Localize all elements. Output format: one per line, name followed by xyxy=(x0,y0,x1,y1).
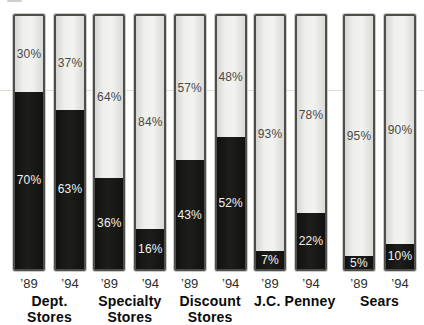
pct-label-bottom: 36% xyxy=(97,216,122,230)
segment-black-sears-89: 5% xyxy=(345,256,373,269)
year-label-specialty-stores-94: ’94 xyxy=(134,276,166,291)
segment-black-dept-stores-89: 70% xyxy=(15,92,43,269)
pct-label-top: 37% xyxy=(58,56,83,70)
group-label-line: Stores xyxy=(93,310,166,325)
pct-label-bottom: 52% xyxy=(218,196,243,210)
bar-group-discount-stores: 57%43%48%52%’89’94DiscountStores xyxy=(174,14,247,325)
segment-black-dept-stores-94: 63% xyxy=(56,110,84,269)
segment-light-discount-stores-94: 48% xyxy=(217,16,245,137)
pct-label-top: 48% xyxy=(218,70,243,84)
bars-row-j-c-penney: 93%7%78%22% xyxy=(254,14,336,271)
bars-row-dept-stores: 30%70%37%63% xyxy=(13,14,86,271)
years-row-discount-stores: ’89’94 xyxy=(174,276,247,291)
group-label-line: Dept. xyxy=(13,294,86,310)
bar-discount-stores-94: 48%52% xyxy=(215,14,247,271)
pct-label-bottom: 22% xyxy=(299,234,324,248)
years-row-sears: ’89’94 xyxy=(343,276,416,291)
pct-label-bottom: 5% xyxy=(350,256,368,270)
segment-light-dept-stores-94: 37% xyxy=(56,16,84,110)
stacked-bar-chart: 30%70%37%63%’89’94Dept.Stores64%36%84%16… xyxy=(0,14,424,325)
bar-group-dept-stores: 30%70%37%63%’89’94Dept.Stores xyxy=(13,14,86,325)
segment-light-j-c-penney-94: 78% xyxy=(297,16,325,213)
bar-dept-stores-89: 30%70% xyxy=(13,14,45,271)
segment-light-sears-94: 90% xyxy=(386,16,414,244)
segment-black-specialty-stores-94: 16% xyxy=(136,229,164,269)
group-label-sears: Sears xyxy=(343,294,416,310)
group-label-line: Specialty xyxy=(93,294,166,310)
pct-label-bottom: 7% xyxy=(261,253,279,267)
segment-light-discount-stores-89: 57% xyxy=(176,16,204,160)
segment-light-dept-stores-89: 30% xyxy=(15,16,43,92)
pct-label-top: 90% xyxy=(388,123,413,137)
year-label-specialty-stores-89: ’89 xyxy=(93,276,125,291)
years-row-dept-stores: ’89’94 xyxy=(13,276,86,291)
scan-smudge-artifact xyxy=(7,0,22,2)
segment-black-j-c-penney-89: 7% xyxy=(256,251,284,269)
group-label-line: J.C. Penney xyxy=(254,294,336,310)
group-label-j-c-penney: J.C. Penney xyxy=(254,294,336,310)
pct-label-top: 64% xyxy=(97,90,122,104)
year-label-sears-89: ’89 xyxy=(343,276,375,291)
pct-label-bottom: 16% xyxy=(138,242,163,256)
segment-black-sears-94: 10% xyxy=(386,244,414,269)
bars-row-sears: 95%5%90%10% xyxy=(343,14,416,271)
bar-sears-89: 95%5% xyxy=(343,14,375,271)
year-label-j-c-penney-94: ’94 xyxy=(295,276,327,291)
pct-label-bottom: 43% xyxy=(177,208,202,222)
pct-label-top: 57% xyxy=(177,81,202,95)
bars-row-discount-stores: 57%43%48%52% xyxy=(174,14,247,271)
group-label-specialty-stores: SpecialtyStores xyxy=(93,294,166,325)
bar-j-c-penney-94: 78%22% xyxy=(295,14,327,271)
segment-black-j-c-penney-94: 22% xyxy=(297,213,325,269)
year-label-dept-stores-89: ’89 xyxy=(13,276,45,291)
group-label-line: Stores xyxy=(13,310,86,325)
year-label-discount-stores-89: ’89 xyxy=(174,276,206,291)
year-label-j-c-penney-89: ’89 xyxy=(254,276,286,291)
bar-specialty-stores-89: 64%36% xyxy=(93,14,125,271)
pct-label-top: 30% xyxy=(17,47,42,61)
group-label-dept-stores: Dept.Stores xyxy=(13,294,86,325)
segment-black-discount-stores-94: 52% xyxy=(217,137,245,269)
bar-j-c-penney-89: 93%7% xyxy=(254,14,286,271)
pct-label-top: 78% xyxy=(299,108,324,122)
group-label-line: Sears xyxy=(343,294,416,310)
group-label-line: Discount xyxy=(174,294,247,310)
chart-figure: 30%70%37%63%’89’94Dept.Stores64%36%84%16… xyxy=(0,0,424,325)
segment-light-j-c-penney-89: 93% xyxy=(256,16,284,251)
year-label-dept-stores-94: ’94 xyxy=(54,276,86,291)
pct-label-bottom: 10% xyxy=(388,249,413,263)
pct-label-bottom: 70% xyxy=(17,173,42,187)
segment-black-discount-stores-89: 43% xyxy=(176,160,204,269)
bar-group-specialty-stores: 64%36%84%16%’89’94SpecialtyStores xyxy=(93,14,166,325)
bar-sears-94: 90%10% xyxy=(384,14,416,271)
pct-label-top: 93% xyxy=(258,127,283,141)
bar-discount-stores-89: 57%43% xyxy=(174,14,206,271)
bars-row-specialty-stores: 64%36%84%16% xyxy=(93,14,166,271)
year-label-sears-94: ’94 xyxy=(384,276,416,291)
segment-black-specialty-stores-89: 36% xyxy=(95,178,123,269)
bar-specialty-stores-94: 84%16% xyxy=(134,14,166,271)
segment-light-specialty-stores-89: 64% xyxy=(95,16,123,178)
bar-group-j-c-penney: 93%7%78%22%’89’94J.C. Penney xyxy=(254,14,336,325)
segment-light-specialty-stores-94: 84% xyxy=(136,16,164,229)
bar-dept-stores-94: 37%63% xyxy=(54,14,86,271)
group-label-line: Stores xyxy=(174,310,247,325)
year-label-discount-stores-94: ’94 xyxy=(215,276,247,291)
group-label-discount-stores: DiscountStores xyxy=(174,294,247,325)
years-row-specialty-stores: ’89’94 xyxy=(93,276,166,291)
bar-group-sears: 95%5%90%10%’89’94Sears xyxy=(343,14,416,325)
pct-label-bottom: 63% xyxy=(58,182,83,196)
years-row-j-c-penney: ’89’94 xyxy=(254,276,336,291)
pct-label-top: 95% xyxy=(347,129,372,143)
segment-light-sears-89: 95% xyxy=(345,16,373,256)
pct-label-top: 84% xyxy=(138,115,163,129)
